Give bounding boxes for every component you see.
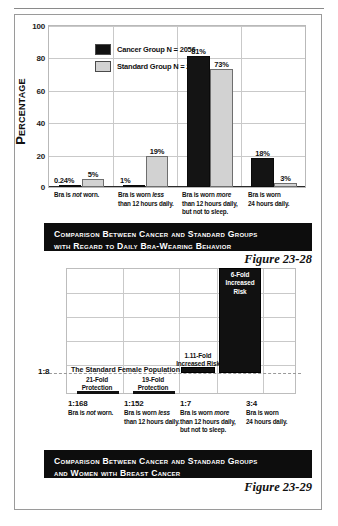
gridline29-v-3 bbox=[217, 269, 218, 393]
ratio-2: 1:152 bbox=[124, 399, 188, 408]
caption29-line-2: and Women with Breast Cancer bbox=[54, 467, 302, 479]
caption29-line-1: Comparison Between Cancer and Standard G… bbox=[54, 455, 302, 467]
bar-cancer-1: 0.24% bbox=[59, 185, 81, 187]
bar-cancer-2: 1% bbox=[123, 185, 145, 188]
x-label-3: Bra is worn morethan 12 hours daily,but … bbox=[182, 191, 248, 217]
plot-area-bottom-chart: 6-FoldIncreasedRisk 1.11-FoldIncreased R… bbox=[66, 268, 296, 394]
y-tick-40: 40 bbox=[37, 119, 46, 128]
protection-label-19-fold: 19-FoldProtection bbox=[127, 376, 179, 393]
y-tick-0: 0 bbox=[41, 183, 45, 192]
bar-value-cancer-1: 0.24% bbox=[54, 176, 74, 185]
bar-standard-1: 5% bbox=[82, 179, 104, 187]
legend-swatch-standard-group bbox=[95, 61, 111, 72]
x-axis-labels-bottom-chart: 1:168 Bra is not worn. 1:152 Bra is worn… bbox=[66, 399, 314, 433]
x-group-1: 1:168 Bra is not worn. bbox=[68, 399, 128, 418]
caption-bar-figure-23-29: Comparison Between Cancer and Standard G… bbox=[44, 450, 312, 478]
figure-23-29: 6-FoldIncreasedRisk 1.11-FoldIncreased R… bbox=[22, 266, 314, 506]
bar-value-standard-2: 19% bbox=[150, 147, 164, 156]
y-tick-100: 100 bbox=[32, 22, 45, 31]
gridline29-v-2 bbox=[179, 269, 180, 393]
figure-number-23-29: Figure 23-29 bbox=[244, 480, 312, 495]
protection-label-21-fold: 21-FoldProtection bbox=[71, 376, 123, 393]
top-rule bbox=[14, 8, 324, 9]
gridline29-v-1 bbox=[123, 269, 124, 393]
x-axis-labels-top-chart: Bra is not worn. Bra is worn lessthan 12… bbox=[48, 191, 306, 221]
caption-line-1: Comparison Between Cancer and Standard G… bbox=[54, 228, 302, 240]
bar-value-cancer-2: 1% bbox=[120, 176, 130, 185]
caption-bar-figure-23-28: Comparison Between Cancer and Standard G… bbox=[44, 223, 312, 251]
figure-number-23-28: Figure 23-28 bbox=[244, 252, 312, 267]
legend-item-cancer-group: Cancer Group N = 2056 bbox=[95, 44, 202, 55]
page: Percentage 100 80 60 40 20 0 bbox=[0, 0, 338, 526]
x-label-1: Bra is not worn. bbox=[54, 191, 116, 200]
bar-value-standard-3: 73% bbox=[214, 60, 228, 69]
bar-value-cancer-3: 81% bbox=[191, 47, 205, 56]
bar-cancer-3: 81% bbox=[187, 56, 210, 187]
ratio-4: 3:4 bbox=[246, 399, 308, 408]
ratio-1: 1:168 bbox=[68, 399, 128, 408]
x-label29-4: Bra is worn24 hours daily. bbox=[246, 409, 308, 426]
y-axis-label-percentage: Percentage bbox=[13, 78, 28, 145]
bar-cancer-4: 18% bbox=[251, 158, 274, 187]
x-label29-1: Bra is not worn. bbox=[68, 409, 128, 418]
figure-23-28: Percentage 100 80 60 40 20 0 bbox=[22, 18, 314, 263]
y-tick-20: 20 bbox=[37, 151, 46, 160]
x-group-3: 1:7 Bra is worn morethan 12 hours daily,… bbox=[180, 399, 246, 435]
baseline-1-to-8 bbox=[39, 373, 301, 374]
x-label-4: Bra is worn24 hours daily. bbox=[248, 191, 308, 208]
plot-area-top-chart: 100 80 60 40 20 0 Cancer Group N = 2056 … bbox=[48, 25, 306, 188]
bar-value-standard-4: 3% bbox=[280, 174, 290, 183]
bar-value-standard-1: 5% bbox=[88, 170, 98, 179]
x-label29-2: Bra is worn lessthan 12 hours daily. bbox=[124, 409, 188, 426]
x-label-2: Bra is worn lessthan 12 hours daily. bbox=[118, 191, 184, 208]
baseline-note: The Standard Female Population bbox=[71, 366, 180, 373]
gridline29-v-4 bbox=[263, 269, 264, 393]
x-label29-3: Bra is worn morethan 12 hours daily,but … bbox=[180, 409, 246, 435]
x-group-2: 1:152 Bra is worn lessthan 12 hours dail… bbox=[124, 399, 188, 426]
risk-label-6-fold: 6-FoldIncreasedRisk bbox=[219, 271, 261, 296]
ratio-3: 1:7 bbox=[180, 399, 246, 408]
y-tick-60: 60 bbox=[37, 86, 46, 95]
bar-standard-4: 3% bbox=[274, 183, 297, 188]
legend-swatch-cancer-group bbox=[95, 44, 111, 55]
bar-standard-2: 19% bbox=[146, 156, 168, 187]
y-axis-label-1-to-8: 1:8 bbox=[38, 367, 50, 376]
bar-standard-3: 73% bbox=[210, 69, 233, 187]
risk-label-1-11-fold: 1.11-FoldIncreased Risk bbox=[174, 352, 222, 369]
x-group-4: 3:4 Bra is worn24 hours daily. bbox=[246, 399, 308, 426]
legend-label-cancer-group: Cancer Group N = 2056 bbox=[117, 45, 196, 54]
bar-value-cancer-4: 18% bbox=[255, 149, 269, 158]
gridline-v-3 bbox=[241, 26, 242, 187]
y-tick-80: 80 bbox=[37, 54, 46, 63]
